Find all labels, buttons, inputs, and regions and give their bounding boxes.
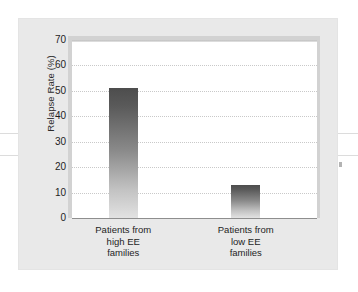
y-axis-tick-label: 20 bbox=[40, 162, 66, 172]
y-axis-tick-label: 30 bbox=[40, 137, 66, 147]
y-axis-tick-label: 70 bbox=[40, 35, 66, 45]
x-axis-category-label-line: families bbox=[78, 247, 168, 259]
x-axis-category-label-line: Patients from bbox=[201, 224, 291, 236]
x-axis-category-label: Patients fromhigh EEfamilies bbox=[78, 224, 168, 259]
scan-artifact-mark bbox=[339, 162, 342, 167]
x-axis-category-label-line: low EE bbox=[201, 236, 291, 248]
plot-area bbox=[72, 40, 317, 218]
x-axis-category-label-line: Patients from bbox=[78, 224, 168, 236]
y-axis-tick-labels: 010203040506070 bbox=[40, 40, 66, 214]
gridline bbox=[72, 65, 317, 66]
y-axis-tick-label: 50 bbox=[40, 86, 66, 96]
y-axis-tick-label: 60 bbox=[40, 60, 66, 70]
plot-frame bbox=[68, 36, 320, 218]
x-axis-category-label: Patients fromlow EEfamilies bbox=[201, 224, 291, 259]
x-axis-category-label-line: families bbox=[201, 247, 291, 259]
bar[interactable] bbox=[109, 88, 138, 218]
y-axis-tick-label: 40 bbox=[40, 111, 66, 121]
y-axis-tick-label: 10 bbox=[40, 188, 66, 198]
x-axis-category-labels: Patients fromhigh EEfamiliesPatients fro… bbox=[68, 224, 320, 274]
x-axis-baseline bbox=[72, 218, 317, 219]
figure-panel: Relapse Rate (%) 010203040506070 Patient… bbox=[18, 18, 338, 270]
x-axis-category-label-line: high EE bbox=[78, 236, 168, 248]
y-axis-tick-label: 0 bbox=[40, 213, 66, 223]
bar[interactable] bbox=[231, 185, 260, 218]
